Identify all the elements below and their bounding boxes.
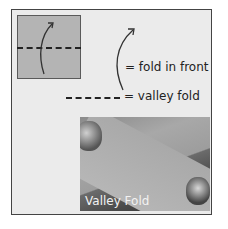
hand-left	[80, 121, 102, 151]
hand-right	[186, 177, 210, 205]
paper-square-diagram	[17, 15, 81, 79]
valley-fold-dash-sample	[66, 97, 120, 99]
valley-fold-label: = valley fold	[124, 89, 200, 103]
photo-caption: Valley Fold	[85, 194, 149, 208]
fold-in-front-label: = fold in front	[125, 60, 209, 74]
fold-arrow-icon	[18, 16, 82, 80]
cropped-text-fragment	[10, 0, 220, 4]
valley-fold-photo: Valley Fold	[80, 117, 210, 211]
legend-panel: = fold in front = valley fold Valley Fol…	[11, 9, 212, 215]
